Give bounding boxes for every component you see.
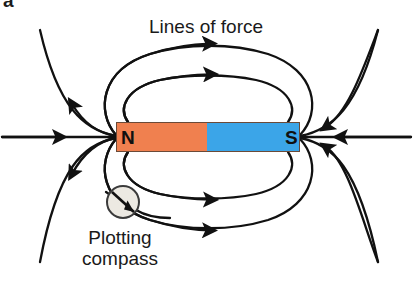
plotting-compass-label: Plotting compass	[62, 228, 178, 269]
lines-of-force-label: Lines of force	[149, 17, 263, 38]
magnetic-field-diagram: a	[0, 0, 413, 283]
inner-bottom-loop	[124, 152, 292, 200]
north-pole-label: N	[121, 128, 135, 147]
upper-right-field-line	[300, 30, 378, 136]
inner-top-loop	[124, 74, 292, 122]
upper-left-field-line	[40, 30, 116, 136]
plotting-compass[interactable]	[107, 186, 139, 218]
lower-right-field-line	[300, 138, 378, 262]
south-pole-label: S	[285, 128, 298, 147]
